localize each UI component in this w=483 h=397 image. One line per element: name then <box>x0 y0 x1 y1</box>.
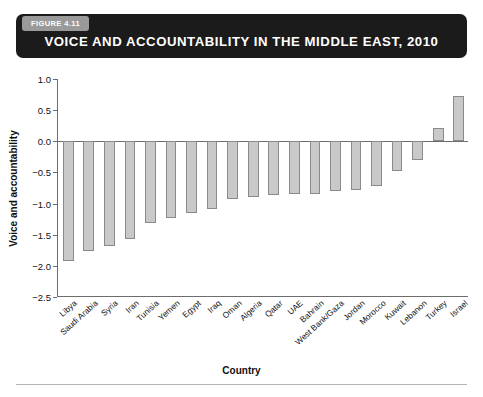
bar <box>351 141 362 190</box>
y-axis-title-text: Voice and accountability <box>8 130 19 247</box>
x-axis-tick-label: Yemen <box>156 298 182 323</box>
bar <box>268 141 279 195</box>
x-axis-tick-label: Egypt <box>180 298 202 320</box>
y-axis-tick-label: −2.0 <box>32 260 57 271</box>
bottom-divider <box>16 384 467 385</box>
bar <box>166 141 177 218</box>
bar <box>63 141 74 261</box>
x-axis-tick-labels: LibyaSaudi ArabiaSyriaIranTunisiaYemenEg… <box>58 298 468 360</box>
bar <box>453 96 464 141</box>
bar <box>330 141 341 191</box>
figure-banner: FIGURE 4.11 VOICE AND ACCOUNTABILITY IN … <box>16 14 467 58</box>
x-axis-tick-label: Algeria <box>238 298 264 323</box>
bar <box>289 141 300 194</box>
x-axis-tick-label: Israel <box>448 298 470 319</box>
x-axis-tick-label: Turkey <box>424 298 449 322</box>
y-axis-tick-label: −1.0 <box>32 198 57 209</box>
x-axis-tick-label: Qatar <box>262 298 284 319</box>
bar <box>248 141 259 197</box>
x-axis-tick-label: Tunisia <box>135 298 161 323</box>
y-axis-tick-label: 0.5 <box>38 105 57 116</box>
bar <box>227 141 238 198</box>
bar <box>145 141 156 223</box>
y-axis-title: Voice and accountability <box>6 79 20 297</box>
y-axis-tick-label: −0.5 <box>32 167 57 178</box>
figure-number-badge: FIGURE 4.11 <box>22 16 89 31</box>
bar <box>392 141 403 170</box>
bar <box>186 141 197 213</box>
x-axis-title: Country <box>0 365 483 376</box>
bar-series <box>58 79 468 297</box>
y-axis-tick-label: −2.5 <box>32 292 57 303</box>
y-axis-tick-label: 1.0 <box>38 74 57 85</box>
figure-title: VOICE AND ACCOUNTABILITY IN THE MIDDLE E… <box>16 34 467 49</box>
chart-container: Voice and accountability 1.00.50.0−0.5−1… <box>0 62 483 362</box>
bar <box>125 141 136 239</box>
bar <box>412 141 423 160</box>
x-axis-tick-label: Syria <box>99 298 120 318</box>
bar <box>371 141 382 186</box>
bar <box>83 141 94 251</box>
bar <box>433 128 444 142</box>
y-axis-tick-label: 0.0 <box>38 136 57 147</box>
bar <box>207 141 218 208</box>
bar <box>310 141 321 193</box>
y-axis-tick-label: −1.5 <box>32 229 57 240</box>
bar <box>104 141 115 246</box>
